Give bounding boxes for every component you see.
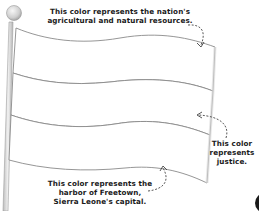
- annotation-freetown-harbor: This color represents the harbor of Free…: [40, 179, 160, 206]
- annotation-line: This color: [206, 139, 258, 148]
- annotation-line: This color represents the: [40, 179, 160, 188]
- annotation-line: harbor of Freetown,: [40, 188, 160, 197]
- annotation-line: justice.: [206, 157, 258, 166]
- flagpole-finial: [7, 6, 22, 21]
- annotation-justice: This color represents justice.: [206, 139, 258, 166]
- annotation-line: represents: [206, 148, 258, 157]
- flag-stripe-bottom: [9, 115, 210, 183]
- flag-diagram: This color represents the nation's agric…: [0, 0, 259, 211]
- annotation-line: This color represents the nation's: [40, 7, 200, 16]
- annotation-line: Sierra Leone's capital.: [40, 197, 160, 206]
- annotation-agricultural-resources: This color represents the nation's agric…: [40, 7, 200, 25]
- corner-badge-partial: [255, 193, 259, 211]
- annotation-line: agricultural and natural resources.: [40, 16, 200, 25]
